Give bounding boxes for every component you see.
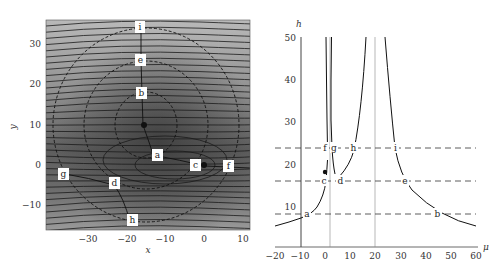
label-a: a — [152, 149, 163, 161]
svg-text:40: 40 — [420, 251, 432, 261]
svg-text:b: b — [435, 209, 441, 219]
x-axis-ticks: −30 −20 −10 0 10 — [79, 234, 249, 244]
label-f: f — [223, 160, 234, 172]
figure: i e b a c f g d h 30 20 10 0 −10 y −30 −… — [0, 0, 503, 276]
h-axis-ticks: 50 40 30 20 10 — [285, 33, 297, 212]
svg-text:−20: −20 — [118, 234, 137, 244]
label-e: e — [135, 54, 146, 66]
h-axis-label: h — [296, 19, 302, 29]
svg-text:40: 40 — [285, 75, 297, 85]
svg-text:d: d — [112, 178, 118, 188]
svg-text:10: 10 — [237, 234, 249, 244]
svg-text:b: b — [139, 88, 145, 98]
svg-text:0: 0 — [322, 251, 328, 261]
bifurcation-plot: f g h i c d e a b 50 40 30 20 10 h −20 −… — [266, 19, 490, 261]
svg-text:e: e — [138, 55, 143, 65]
svg-text:c: c — [321, 176, 326, 186]
svg-text:c: c — [193, 160, 198, 170]
svg-text:−20: −20 — [266, 251, 285, 261]
svg-text:0: 0 — [201, 234, 207, 244]
minimum-point — [141, 122, 147, 128]
svg-text:30: 30 — [30, 39, 42, 49]
minimum-point — [201, 162, 207, 168]
svg-text:20: 20 — [369, 251, 381, 261]
svg-text:20: 20 — [285, 160, 297, 170]
svg-text:50: 50 — [445, 251, 457, 261]
curves — [275, 37, 476, 226]
y-axis-ticks: 30 20 10 0 −10 — [22, 39, 41, 210]
curve-labels: f g h i c d e a b — [303, 142, 442, 219]
svg-text:30: 30 — [285, 117, 297, 127]
svg-text:−30: −30 — [79, 234, 98, 244]
svg-text:0: 0 — [35, 160, 41, 170]
svg-text:10: 10 — [344, 251, 356, 261]
svg-text:50: 50 — [285, 33, 297, 43]
svg-text:e: e — [402, 176, 407, 186]
label-b: b — [136, 87, 147, 99]
svg-text:20: 20 — [30, 79, 42, 89]
svg-text:−10: −10 — [22, 200, 41, 210]
svg-text:h: h — [130, 215, 136, 225]
contour-plot: i e b a c f g d h 30 20 10 0 −10 y −30 −… — [8, 20, 258, 255]
label-d: d — [109, 177, 120, 189]
y-axis-label: y — [8, 124, 18, 131]
label-c: c — [190, 159, 201, 171]
mu-axis-label: μ — [483, 242, 489, 252]
horizontal-dashed-lines — [275, 148, 476, 214]
label-i: i — [135, 21, 145, 33]
label-h: h — [127, 214, 138, 226]
svg-text:−10: −10 — [156, 234, 175, 244]
svg-text:−10: −10 — [291, 251, 310, 261]
svg-text:i: i — [394, 143, 397, 153]
mu-axis-ticks: −20 −10 0 10 20 30 40 50 60 — [266, 251, 482, 261]
svg-text:d: d — [338, 176, 344, 186]
svg-text:a: a — [155, 150, 161, 160]
label-g: g — [58, 168, 69, 180]
svg-text:60: 60 — [470, 251, 482, 261]
x-axis-label: x — [145, 245, 150, 255]
svg-text:a: a — [304, 209, 310, 219]
svg-text:i: i — [139, 22, 142, 32]
svg-text:g: g — [61, 169, 67, 179]
svg-text:10: 10 — [30, 120, 42, 130]
svg-text:30: 30 — [395, 251, 407, 261]
svg-text:10: 10 — [285, 202, 297, 212]
marked-point — [323, 170, 327, 174]
svg-text:g: g — [331, 143, 337, 153]
svg-text:h: h — [351, 143, 357, 153]
